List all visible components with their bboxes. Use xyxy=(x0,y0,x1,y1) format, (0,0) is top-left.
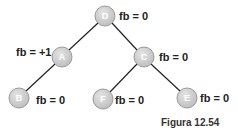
node-f-balance-factor: fb = 0 xyxy=(115,94,144,106)
node-b: B xyxy=(9,88,29,108)
node-c-balance-factor: fb = 0 xyxy=(159,51,188,63)
node-c: C xyxy=(134,47,154,67)
node-a: A xyxy=(52,47,72,67)
node-b-balance-factor: fb = 0 xyxy=(36,94,65,106)
node-c-label: C xyxy=(141,52,148,62)
node-a-balance-factor: fb = +1 xyxy=(16,46,51,58)
figure-caption: Figura 12.54 xyxy=(161,117,220,128)
node-a-label: A xyxy=(59,52,66,62)
edge-d-c xyxy=(112,23,137,50)
edge-d-a xyxy=(69,23,98,50)
node-b-label: B xyxy=(16,93,23,103)
node-f: F xyxy=(93,89,113,109)
edge-a-b xyxy=(26,64,55,91)
node-f-label: F xyxy=(100,94,106,104)
node-e-label: E xyxy=(184,93,190,103)
edge-c-f xyxy=(110,64,137,92)
avl-tree-diagram: D fb = 0 A fb = +1 C fb = 0 B fb = 0 F f… xyxy=(0,0,238,132)
node-d-balance-factor: fb = 0 xyxy=(119,10,148,22)
edge-c-e xyxy=(151,64,180,91)
node-d-label: D xyxy=(102,11,109,21)
node-d: D xyxy=(95,6,115,26)
node-e: E xyxy=(177,88,197,108)
node-e-balance-factor: fb = 0 xyxy=(200,92,229,104)
